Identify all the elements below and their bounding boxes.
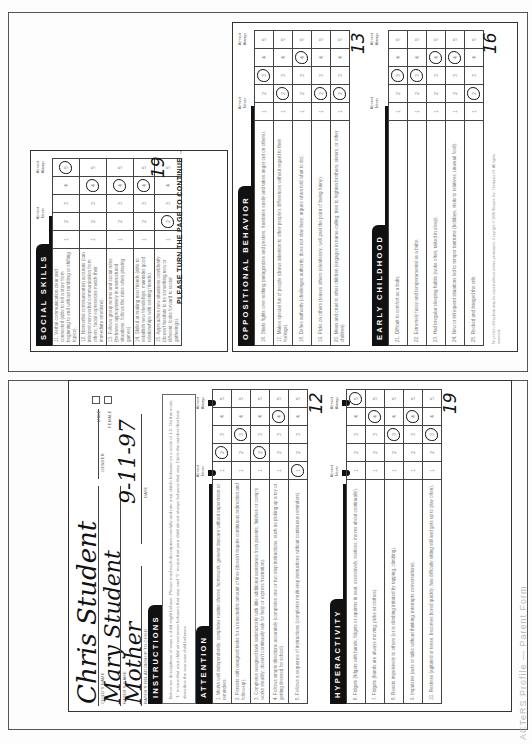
- rating-option-3[interactable]: 3: [446, 67, 465, 85]
- rating-option-5[interactable]: 5: [107, 159, 134, 177]
- rating-option-2[interactable]: 2: [389, 85, 408, 103]
- rating-option-4[interactable]: 4: [347, 408, 366, 426]
- rating-option-2[interactable]: 2: [232, 444, 251, 462]
- rating-option-3[interactable]: 3: [251, 426, 270, 444]
- rating-option-1[interactable]: 1: [255, 103, 274, 121]
- rating-option-2[interactable]: 2: [134, 213, 155, 231]
- rating-option-4[interactable]: 4: [232, 408, 251, 426]
- rating-option-3[interactable]: 3: [389, 67, 408, 85]
- rating-option-4[interactable]: 4: [289, 408, 308, 426]
- rating-option-4[interactable]: 4: [80, 177, 107, 195]
- rating-option-2[interactable]: 2: [289, 444, 308, 462]
- rating-option-4[interactable]: 4: [107, 177, 134, 195]
- rating-option-2[interactable]: 2: [366, 444, 385, 462]
- rating-option-4[interactable]: 4: [366, 408, 385, 426]
- rating-option-5[interactable]: 5: [427, 31, 446, 49]
- rating-option-5[interactable]: 5: [331, 31, 350, 49]
- rating-option-5[interactable]: 5: [251, 390, 270, 408]
- rating-option-5[interactable]: 5: [255, 31, 274, 49]
- rating-option-1[interactable]: 1: [107, 231, 134, 249]
- rating-option-5[interactable]: 5: [366, 390, 385, 408]
- rating-option-3[interactable]: 3: [408, 67, 427, 85]
- rating-option-5[interactable]: 5: [312, 31, 331, 49]
- rating-option-3[interactable]: 3: [385, 426, 404, 444]
- rating-option-3[interactable]: 3: [213, 426, 232, 444]
- rating-option-2[interactable]: 2: [255, 85, 274, 103]
- rating-option-4[interactable]: 4: [270, 408, 289, 426]
- rating-option-1[interactable]: 1: [366, 462, 385, 480]
- rating-option-5[interactable]: 5: [293, 31, 312, 49]
- rating-option-4[interactable]: 4: [312, 49, 331, 67]
- rating-option-1[interactable]: 1: [270, 462, 289, 480]
- rating-option-3[interactable]: 3: [312, 67, 331, 85]
- rating-option-1[interactable]: 1: [274, 103, 293, 121]
- rating-option-1[interactable]: 1: [347, 462, 366, 480]
- rating-option-3[interactable]: 3: [366, 426, 385, 444]
- rating-option-3[interactable]: 3: [347, 426, 366, 444]
- rating-option-2[interactable]: 2: [404, 444, 423, 462]
- rating-option-3[interactable]: 3: [107, 195, 134, 213]
- rating-option-3[interactable]: 3: [232, 426, 251, 444]
- rating-option-4[interactable]: 4: [255, 49, 274, 67]
- rating-option-2[interactable]: 2: [107, 213, 134, 231]
- rating-option-1[interactable]: 1: [465, 103, 484, 121]
- male-checkbox[interactable]: [92, 396, 100, 404]
- rating-option-4[interactable]: 4: [53, 177, 80, 195]
- rating-option-4[interactable]: 4: [404, 408, 423, 426]
- rating-option-4[interactable]: 4: [274, 49, 293, 67]
- rating-option-5[interactable]: 5: [289, 390, 308, 408]
- rating-option-2[interactable]: 2: [408, 85, 427, 103]
- rating-option-1[interactable]: 1: [389, 103, 408, 121]
- rating-option-3[interactable]: 3: [53, 195, 80, 213]
- rating-option-1[interactable]: 1: [404, 462, 423, 480]
- rating-option-1[interactable]: 1: [289, 462, 308, 480]
- rating-option-3[interactable]: 3: [80, 195, 107, 213]
- rating-option-2[interactable]: 2: [446, 85, 465, 103]
- rating-option-2[interactable]: 2: [213, 444, 232, 462]
- rating-option-4[interactable]: 4: [213, 408, 232, 426]
- rating-option-4[interactable]: 4: [385, 408, 404, 426]
- rating-option-5[interactable]: 5: [270, 390, 289, 408]
- rating-option-2[interactable]: 2: [423, 444, 442, 462]
- rating-option-3[interactable]: 3: [423, 426, 442, 444]
- rating-option-1[interactable]: 1: [312, 103, 331, 121]
- rating-option-2[interactable]: 2: [274, 85, 293, 103]
- rating-option-5[interactable]: 5: [404, 390, 423, 408]
- rating-option-2[interactable]: 2: [331, 85, 350, 103]
- rating-option-3[interactable]: 3: [427, 67, 446, 85]
- rating-option-1[interactable]: 1: [80, 231, 107, 249]
- rating-option-5[interactable]: 5: [80, 159, 107, 177]
- rating-option-1[interactable]: 1: [251, 462, 270, 480]
- rating-option-1[interactable]: 1: [293, 103, 312, 121]
- rating-option-5[interactable]: 5: [274, 31, 293, 49]
- rating-option-1[interactable]: 1: [232, 462, 251, 480]
- date-value[interactable]: 9-11-97: [115, 419, 140, 504]
- rating-option-2[interactable]: 2: [80, 213, 107, 231]
- rating-option-1[interactable]: 1: [427, 103, 446, 121]
- rating-option-3[interactable]: 3: [274, 67, 293, 85]
- rating-option-3[interactable]: 3: [255, 67, 274, 85]
- rating-option-4[interactable]: 4: [427, 49, 446, 67]
- rating-option-4[interactable]: 4: [389, 49, 408, 67]
- rating-option-4[interactable]: 4: [293, 49, 312, 67]
- rating-option-3[interactable]: 3: [134, 195, 155, 213]
- rating-option-3[interactable]: 3: [465, 67, 484, 85]
- rating-option-2[interactable]: 2: [251, 444, 270, 462]
- rating-option-5[interactable]: 5: [408, 31, 427, 49]
- rating-option-4[interactable]: 4: [251, 408, 270, 426]
- rating-option-1[interactable]: 1: [446, 103, 465, 121]
- rating-option-3[interactable]: 3: [270, 426, 289, 444]
- rating-option-5[interactable]: 5: [53, 159, 80, 177]
- rating-option-2[interactable]: 2: [427, 85, 446, 103]
- rating-option-2[interactable]: 2: [270, 444, 289, 462]
- rating-option-3[interactable]: 3: [404, 426, 423, 444]
- rating-option-1[interactable]: 1: [385, 462, 404, 480]
- rating-option-4[interactable]: 4: [408, 49, 427, 67]
- rating-option-2[interactable]: 2: [293, 85, 312, 103]
- rating-option-4[interactable]: 4: [134, 177, 155, 195]
- rating-option-3[interactable]: 3: [289, 426, 308, 444]
- rating-option-5[interactable]: 5: [423, 390, 442, 408]
- rating-option-5[interactable]: 5: [232, 390, 251, 408]
- rating-option-1[interactable]: 1: [213, 462, 232, 480]
- rating-option-5[interactable]: 5: [446, 31, 465, 49]
